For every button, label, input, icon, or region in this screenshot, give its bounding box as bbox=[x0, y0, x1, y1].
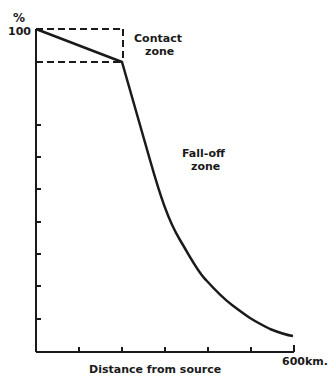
decay-curve bbox=[36, 29, 293, 336]
y-unit-label: % bbox=[13, 11, 25, 25]
contact-zone-label-2: zone bbox=[145, 45, 174, 58]
contact-zone-label-1: Contact bbox=[134, 32, 182, 45]
chart: % 100 Contact zone Fall-off zone Distanc… bbox=[0, 0, 328, 390]
falloff-zone-label-1: Fall-off bbox=[182, 147, 225, 160]
x-ticks bbox=[79, 345, 294, 352]
x-axis-title: Distance from source bbox=[89, 363, 221, 376]
falloff-zone-label-2: zone bbox=[191, 160, 220, 173]
x-max-label: 600km. bbox=[282, 355, 328, 368]
y-max-label: 100 bbox=[8, 25, 31, 38]
